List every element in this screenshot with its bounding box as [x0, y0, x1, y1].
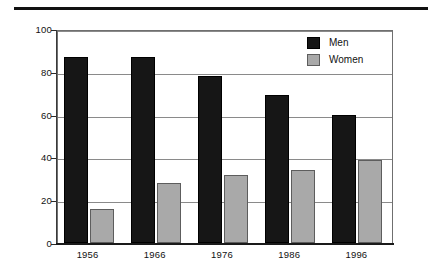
legend-label: Men: [329, 38, 348, 48]
bar-women-1956: [90, 209, 114, 243]
legend-label: Women: [329, 55, 363, 65]
bar-women-1996: [358, 160, 382, 243]
top-rule-divider: [14, 7, 428, 10]
x-axis-line: [56, 243, 394, 245]
black-square-icon: [307, 37, 320, 49]
bar-women-1976: [224, 175, 248, 243]
gridline: [58, 74, 392, 75]
y-tick-label: 100: [36, 25, 52, 35]
x-tick-label: 1996: [345, 250, 367, 260]
bar-men-1966: [131, 57, 155, 243]
x-tick-label: 1966: [144, 250, 166, 260]
chart-legend: MenWomen: [307, 31, 391, 70]
bar-men-1986: [265, 95, 289, 243]
chart-figure: 020406080100 19561966197619861996 MenWom…: [0, 0, 439, 275]
legend-item-men: Men: [307, 34, 391, 51]
bar-men-1956: [64, 57, 88, 243]
gray-square-icon: [307, 54, 320, 66]
x-tick-label: 1986: [278, 250, 300, 260]
x-tick-label: 1956: [77, 250, 99, 260]
bar-women-1986: [291, 170, 315, 243]
bar-men-1996: [332, 115, 356, 243]
bar-women-1966: [157, 183, 181, 243]
y-axis-tick-labels: 020406080100: [0, 0, 52, 275]
bar-men-1976: [198, 76, 222, 243]
x-tick-label: 1976: [211, 250, 233, 260]
legend-item-women: Women: [307, 51, 391, 68]
